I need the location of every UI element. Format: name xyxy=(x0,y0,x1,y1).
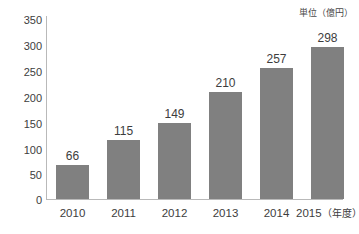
bar-rect xyxy=(107,140,140,199)
x-tick-label-2011: 2011 xyxy=(98,207,149,219)
bar-value-label: 149 xyxy=(149,108,200,120)
bar-value-label: 115 xyxy=(98,125,149,137)
x-tick-label-2013: 2013 xyxy=(200,207,251,219)
x-tick-label-2010: 2010 xyxy=(47,207,98,219)
y-tick-label: 250 xyxy=(4,67,42,78)
y-axis-tick-labels: 350 300 250 200 150 100 50 0 xyxy=(0,0,42,234)
y-tick-label: 350 xyxy=(4,15,42,26)
x-tick-text: 2011 xyxy=(111,207,136,219)
y-tick-label: 300 xyxy=(4,41,42,52)
y-tick-label: 150 xyxy=(4,119,42,130)
bar-value-label: 257 xyxy=(251,53,302,65)
x-tick-text: 2010 xyxy=(60,207,86,219)
bar-rect xyxy=(209,92,242,199)
bar-rect xyxy=(311,47,344,199)
x-tick-text: 2013 xyxy=(213,207,239,219)
y-tick-label: 50 xyxy=(4,170,42,181)
x-tick-label-2014: 2014 xyxy=(251,207,302,219)
bar-value-label: 66 xyxy=(47,150,98,162)
x-tick-text: 2014 xyxy=(264,207,290,219)
bar-value-label: 298 xyxy=(302,32,353,44)
bar-rect xyxy=(158,123,191,199)
y-tick-label: 200 xyxy=(4,93,42,104)
x-tick-text: 2015 xyxy=(296,207,322,219)
plot-area: 66 115 149 210 257 298 xyxy=(46,0,359,234)
x-tick-label-2012: 2012 xyxy=(149,207,200,219)
y-tick-label: 0 xyxy=(4,195,42,206)
y-tick-label: 100 xyxy=(4,145,42,156)
bar-rect xyxy=(260,68,293,199)
bar-rect xyxy=(56,165,89,199)
bar-chart: 単位（億円） 350 300 250 200 150 100 50 0 66 1… xyxy=(0,0,359,234)
x-axis-unit-suffix: （年度） xyxy=(322,208,359,219)
x-tick-text: 2012 xyxy=(162,207,188,219)
bar-value-label: 210 xyxy=(200,77,251,89)
x-tick-label-2015: 2015（年度） xyxy=(296,207,359,220)
